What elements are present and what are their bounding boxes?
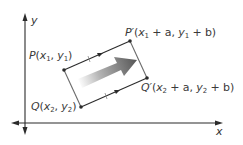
label-P: P(x1, y1) bbox=[29, 50, 72, 62]
translation-diagram: y x P(x1, y1) Q(x2, y2) P′(x1 + a, y1 + … bbox=[0, 0, 243, 145]
point-P bbox=[62, 68, 66, 72]
x-axis-left-arrow-icon bbox=[11, 121, 19, 126]
y-axis-up-arrow-icon bbox=[23, 13, 28, 21]
point-Q bbox=[79, 105, 83, 109]
label-Qprime: Q′(x2 + a, y2 + b) bbox=[141, 82, 234, 94]
x-axis-label: x bbox=[216, 125, 223, 138]
y-axis-down-arrow-icon bbox=[23, 127, 28, 135]
y-axis bbox=[23, 13, 28, 135]
point-Qprime bbox=[145, 76, 149, 80]
label-Pprime: P′(x1 + a, y1 + b) bbox=[125, 27, 216, 39]
point-Pprime bbox=[128, 39, 132, 43]
x-axis bbox=[11, 121, 223, 126]
label-Q: Q(x2, y2) bbox=[31, 101, 76, 113]
y-axis-label: y bbox=[31, 14, 38, 27]
translation-arrow-icon bbox=[78, 57, 137, 88]
